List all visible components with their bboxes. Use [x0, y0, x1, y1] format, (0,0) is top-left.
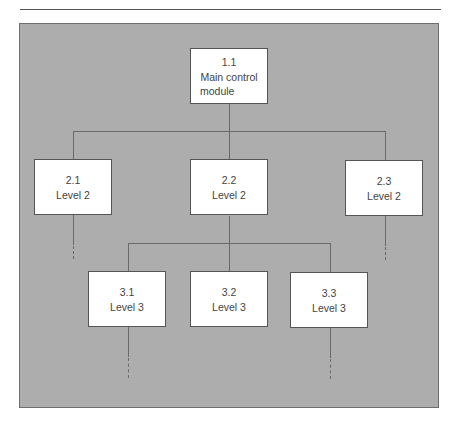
connector-3-1-below [128, 327, 129, 357]
node-label: module [200, 84, 234, 98]
continuation-3-3 [330, 359, 331, 379]
connector-level2-horizontal [73, 131, 386, 132]
node-1-1: 1.1 Main control module [190, 48, 268, 104]
node-number: 3.2 [222, 285, 237, 299]
node-3-1: 3.1 Level 3 [88, 271, 166, 327]
connector-2-1-below [73, 215, 74, 245]
node-number: 1.1 [222, 55, 237, 69]
node-number: 2.2 [222, 173, 237, 187]
node-2-1: 2.1 Level 2 [34, 159, 112, 215]
node-label: Level 2 [367, 189, 401, 203]
node-3-3: 3.3 Level 3 [290, 272, 368, 328]
node-2-3: 2.3 Level 2 [345, 160, 423, 216]
connector-to-3-3 [330, 243, 331, 272]
connector-to-2-1 [73, 131, 74, 159]
node-label: Level 2 [212, 188, 246, 202]
connector-to-3-1 [128, 243, 129, 271]
node-number: 3.3 [322, 286, 337, 300]
connector-level3-horizontal [128, 243, 331, 244]
node-number: 2.1 [66, 173, 81, 187]
connector-2-3-below [385, 216, 386, 246]
node-number: 3.1 [120, 285, 135, 299]
node-number: 2.3 [377, 174, 392, 188]
continuation-2-1 [73, 246, 74, 259]
node-label: Level 2 [56, 188, 90, 202]
node-label: Level 3 [212, 300, 246, 314]
connector-to-2-3 [385, 131, 386, 160]
top-rule [20, 9, 441, 10]
connector-3-3-below [330, 328, 331, 358]
continuation-3-1 [128, 358, 129, 378]
node-2-2: 2.2 Level 2 [190, 159, 268, 215]
node-label: Main control [200, 70, 257, 84]
continuation-2-3 [385, 247, 386, 260]
node-label: Level 3 [312, 301, 346, 315]
node-label: Level 3 [110, 300, 144, 314]
node-3-2: 3.2 Level 3 [190, 271, 268, 327]
